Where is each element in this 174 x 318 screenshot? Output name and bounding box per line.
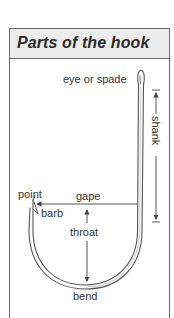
shank-label: shank <box>150 116 162 146</box>
gape-label: gape <box>76 190 100 202</box>
bend-label: bend <box>73 290 97 302</box>
shank-dimension <box>152 90 160 222</box>
barb-label: barb <box>41 207 63 219</box>
throat-label: throat <box>70 226 98 238</box>
point-label: point <box>18 188 42 200</box>
eye-label: eye or spade <box>63 73 127 85</box>
